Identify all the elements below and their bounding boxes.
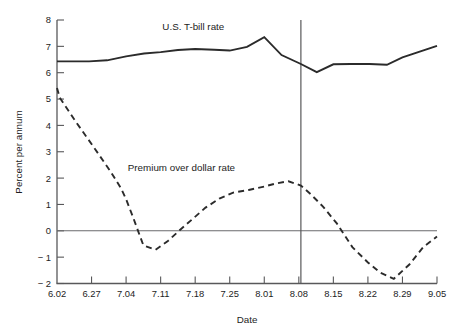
x-tick-label-7.25: 7.25 <box>221 288 239 299</box>
series-annotations: U.S. T-bill ratePremium over dollar rate <box>128 21 236 173</box>
chart-container: 876543210− 1− 2 6.026.277.047.117.187.25… <box>0 0 455 335</box>
y-tick-label--1: − 1 <box>38 252 51 263</box>
y-axis-ticks: 876543210− 1− 2 <box>38 14 64 289</box>
y-tick-label-4: 4 <box>46 120 51 131</box>
x-tick-label-7.04: 7.04 <box>117 288 135 299</box>
y-tick-label-2: 2 <box>46 173 51 184</box>
annotation-premium-over-dollar-rate: Premium over dollar rate <box>128 162 236 173</box>
x-tick-label-8.29: 8.29 <box>393 288 411 299</box>
y-tick-label-6: 6 <box>46 67 51 78</box>
x-axis-ticks: 6.026.277.047.117.187.258.018.088.158.22… <box>48 277 446 299</box>
x-axis-title: Date <box>237 314 258 325</box>
y-tick-label-3: 3 <box>46 146 51 157</box>
y-tick-label-5: 5 <box>46 93 51 104</box>
x-tick-label-7.11: 7.11 <box>152 288 170 299</box>
y-axis-title: Percent per annum <box>13 110 24 193</box>
y-tick-label-0: 0 <box>46 225 51 236</box>
series-line-premium-over-dollar-rate <box>57 88 437 279</box>
y-tick-label-1: 1 <box>46 199 51 210</box>
x-tick-label-8.08: 8.08 <box>290 288 308 299</box>
x-tick-label-8.15: 8.15 <box>324 288 342 299</box>
series-line-u-s-t-bill-rate <box>57 37 437 72</box>
x-tick-label-6.27: 6.27 <box>82 288 100 299</box>
y-tick-label-8: 8 <box>46 14 51 25</box>
x-tick-label-9.05: 9.05 <box>428 288 446 299</box>
x-tick-label-8.01: 8.01 <box>255 288 273 299</box>
annotation-u-s-t-bill-rate: U.S. T-bill rate <box>162 21 224 32</box>
x-tick-label-8.22: 8.22 <box>359 288 377 299</box>
y-tick-label-7: 7 <box>46 41 51 52</box>
data-series-layer <box>57 37 437 279</box>
line-chart: 876543210− 1− 2 6.026.277.047.117.187.25… <box>0 0 455 335</box>
x-tick-label-6.02: 6.02 <box>48 288 66 299</box>
x-tick-label-7.18: 7.18 <box>186 288 204 299</box>
